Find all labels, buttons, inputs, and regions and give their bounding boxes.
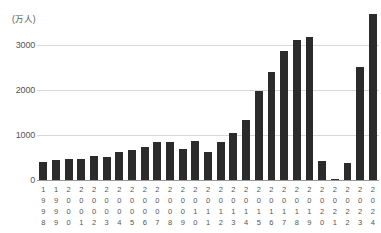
bar[interactable] [39, 162, 47, 180]
bar[interactable] [255, 91, 263, 180]
x-axis-label-digit: 8 [168, 217, 172, 228]
bar[interactable] [318, 161, 326, 180]
x-axis-baseline [37, 180, 379, 181]
x-axis-label-digit: 2 [181, 184, 185, 195]
bar[interactable] [204, 152, 212, 180]
x-axis-label-digit: 2 [130, 184, 134, 195]
x-axis-label-digit: 2 [333, 206, 337, 217]
bar[interactable] [229, 133, 237, 180]
x-axis-label-digit: 0 [257, 195, 261, 206]
x-axis-label-digit: 0 [320, 217, 324, 228]
x-axis-label-digit: 2 [345, 217, 349, 228]
x-axis-label-digit: 2 [320, 206, 324, 217]
bar[interactable] [344, 163, 352, 180]
bar-slot [88, 0, 101, 180]
x-axis-label-digit: 2 [92, 184, 96, 195]
x-axis-label-digit: 0 [219, 195, 223, 206]
bar-slot [189, 0, 202, 180]
x-axis-label-digit: 2 [143, 184, 147, 195]
bar[interactable] [191, 141, 199, 180]
bar[interactable] [77, 159, 85, 180]
x-axis-label-digit: 9 [54, 206, 58, 217]
bar-slot [328, 0, 341, 180]
x-axis-label-digit: 2 [219, 217, 223, 228]
bar[interactable] [369, 14, 377, 180]
bar[interactable] [242, 120, 250, 180]
bar-slot [176, 0, 189, 180]
x-axis-label-digit: 0 [105, 206, 109, 217]
bar-slot [316, 0, 329, 180]
x-axis-tick-label: 2024 [366, 182, 379, 233]
bar[interactable] [153, 142, 161, 180]
x-axis-tick-label: 2014 [240, 182, 253, 233]
x-axis-label-digit: 0 [193, 195, 197, 206]
x-axis-label-digit: 1 [231, 206, 235, 217]
x-axis-label-digit: 0 [269, 195, 273, 206]
x-axis-tick-label: 2002 [88, 182, 101, 233]
bar[interactable] [268, 72, 276, 180]
bar-slot [62, 0, 75, 180]
x-axis-label-digit: 1 [282, 206, 286, 217]
bar[interactable] [141, 147, 149, 180]
x-axis-label-digit: 2 [371, 206, 375, 217]
bar-slot [138, 0, 151, 180]
x-axis-tick-label: 2006 [138, 182, 151, 233]
x-axis-label-digit: 0 [117, 195, 121, 206]
x-axis-label-digit: 1 [219, 206, 223, 217]
x-axis-label-digit: 2 [333, 184, 337, 195]
x-axis-label-digit: 2 [219, 184, 223, 195]
x-axis-label-digit: 0 [130, 195, 134, 206]
x-axis-tick-labels: 1998199920002001200220032004200520062007… [37, 182, 379, 233]
x-axis-label-digit: 5 [257, 217, 261, 228]
bar-slot [278, 0, 291, 180]
x-axis-tick-label: 2021 [328, 182, 341, 233]
bar-slot [227, 0, 240, 180]
x-axis-label-digit: 1 [333, 217, 337, 228]
bar[interactable] [128, 150, 136, 180]
bar-slot [366, 0, 379, 180]
bar[interactable] [90, 156, 98, 180]
bar-slot [303, 0, 316, 180]
bar[interactable] [52, 160, 60, 180]
x-axis-label-digit: 0 [282, 195, 286, 206]
bar-slot [240, 0, 253, 180]
bar-slot [75, 0, 88, 180]
bar[interactable] [331, 179, 339, 180]
x-axis-label-digit: 2 [244, 184, 248, 195]
x-axis-label-digit: 0 [155, 206, 159, 217]
x-axis-label-digit: 2 [358, 184, 362, 195]
bar[interactable] [280, 51, 288, 180]
x-axis-label-digit: 0 [67, 195, 71, 206]
x-axis-tick-label: 2011 [202, 182, 215, 233]
x-axis-label-digit: 6 [143, 217, 147, 228]
x-axis-label-digit: 8 [41, 217, 45, 228]
x-axis-label-digit: 9 [181, 217, 185, 228]
x-axis-tick-label: 2007 [151, 182, 164, 233]
bar[interactable] [293, 40, 301, 180]
bar[interactable] [217, 142, 225, 180]
bar[interactable] [306, 37, 314, 180]
bar[interactable] [65, 159, 73, 180]
x-axis-label-digit: 0 [345, 195, 349, 206]
x-axis-label-digit: 2 [193, 184, 197, 195]
x-axis-label-digit: 3 [105, 217, 109, 228]
x-axis-label-digit: 2 [269, 184, 273, 195]
bar[interactable] [179, 149, 187, 180]
y-axis-tick-label: 2000 [0, 85, 35, 95]
x-axis-label-digit: 9 [41, 195, 45, 206]
x-axis-label-digit: 0 [320, 195, 324, 206]
bar-slot [151, 0, 164, 180]
x-axis-label-digit: 9 [54, 217, 58, 228]
bar-slot [113, 0, 126, 180]
x-axis-label-digit: 2 [168, 184, 172, 195]
x-axis-label-digit: 0 [79, 206, 83, 217]
bar[interactable] [356, 67, 364, 180]
bar[interactable] [115, 152, 123, 180]
bar-slot [100, 0, 113, 180]
bar[interactable] [103, 157, 111, 180]
bar[interactable] [166, 142, 174, 180]
x-axis-label-digit: 2 [206, 184, 210, 195]
x-axis-label-digit: 2 [295, 184, 299, 195]
x-axis-label-digit: 0 [181, 195, 185, 206]
x-axis-label-digit: 0 [130, 206, 134, 217]
